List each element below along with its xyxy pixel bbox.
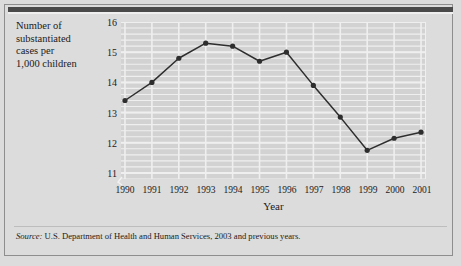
y-tick-label: 13 bbox=[97, 107, 117, 118]
y-tick-label: 16 bbox=[97, 17, 117, 28]
x-tick-label: 1998 bbox=[332, 185, 351, 195]
x-tick-label: 1990 bbox=[116, 185, 135, 195]
y-tick-label: 15 bbox=[97, 47, 117, 58]
x-tick-label: 1997 bbox=[305, 185, 324, 195]
x-tick-label: 1992 bbox=[170, 185, 189, 195]
y-axis-title-line-2: substantiated bbox=[16, 33, 100, 46]
top-rule-highlight bbox=[8, 12, 453, 14]
y-axis-title: Number of substantiated cases per 1,000 … bbox=[16, 20, 100, 70]
x-tick-label: 1994 bbox=[224, 185, 243, 195]
y-tick-label: 14 bbox=[97, 77, 117, 88]
plot-area bbox=[121, 22, 426, 179]
x-axis-title: Year bbox=[121, 200, 426, 212]
x-tick-label: 2000 bbox=[386, 185, 405, 195]
x-tick-label: 1995 bbox=[251, 185, 270, 195]
x-tick-label: 1996 bbox=[278, 185, 297, 195]
chart-figure: Number of substantiated cases per 1,000 … bbox=[0, 0, 461, 266]
x-tick-label: 2001 bbox=[413, 185, 432, 195]
y-tick-label: 12 bbox=[97, 137, 117, 148]
x-tick-label: 1993 bbox=[197, 185, 216, 195]
source-divider bbox=[14, 226, 447, 227]
source-note: Source: U.S. Department of Health and Hu… bbox=[16, 231, 300, 241]
x-tick-label: 1991 bbox=[143, 185, 162, 195]
y-axis-tick-labels: 111213141516 bbox=[95, 22, 117, 179]
y-tick-label: 11 bbox=[97, 167, 117, 178]
y-axis-title-line-4: 1,000 children bbox=[16, 58, 100, 71]
x-tick-label: 1999 bbox=[359, 185, 378, 195]
source-label: Source: bbox=[16, 231, 42, 241]
x-axis-tick-labels: 1990199119921993199419951996199719981999… bbox=[121, 185, 426, 199]
source-text: U.S. Department of Health and Human Serv… bbox=[45, 231, 301, 241]
data-series-line bbox=[121, 22, 425, 179]
y-axis-title-line-3: cases per bbox=[16, 45, 100, 58]
y-axis-title-line-1: Number of bbox=[16, 20, 100, 33]
